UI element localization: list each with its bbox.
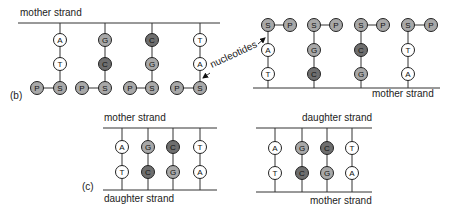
base-A: A — [54, 34, 67, 47]
base-C-letter: C — [299, 169, 305, 178]
base-A-letter: A — [197, 60, 203, 69]
phosphate-node: P — [31, 82, 44, 95]
base-G-letter: G — [299, 144, 305, 153]
base-G-letter: G — [170, 168, 176, 177]
sugar-node-letter: S — [405, 21, 410, 30]
daughter-strand-label: daughter strand — [104, 193, 174, 204]
sugar-node-letter: S — [57, 84, 62, 93]
phosphate-node-letter: P — [287, 21, 292, 30]
base-C-letter: C — [170, 143, 176, 152]
base-T-letter: T — [406, 46, 411, 55]
base-T-letter: T — [58, 60, 63, 69]
nucleotides-label: nucleotides — [208, 38, 259, 69]
base-T-letter: T — [266, 70, 271, 79]
base-T: T — [194, 141, 207, 154]
base-C: C — [142, 166, 155, 179]
dna-replication-diagram: mother strand ATPSGCPSCGPSTAPS (b) nucle… — [0, 0, 449, 217]
base-T: T — [116, 166, 129, 179]
base-G: G — [296, 142, 309, 155]
sugar-node: S — [262, 19, 275, 32]
nucleotides-annotation: nucleotides — [203, 38, 265, 78]
base-C: C — [308, 68, 321, 81]
base-C: C — [167, 141, 180, 154]
base-T-letter: T — [120, 168, 125, 177]
base-A: A — [346, 167, 359, 180]
sugar-node: S — [308, 19, 321, 32]
base-C: C — [296, 167, 309, 180]
phosphate-node: P — [76, 82, 89, 95]
sugar-node: S — [54, 82, 67, 95]
base-C-letter: C — [149, 36, 155, 45]
base-T: T — [194, 34, 207, 47]
base-T-letter: T — [350, 144, 355, 153]
phosphate-node: P — [330, 19, 343, 32]
base-G: G — [355, 68, 368, 81]
phosphate-node-letter: P — [380, 21, 385, 30]
sugar-node: S — [99, 82, 112, 95]
sugar-node: S — [355, 19, 368, 32]
arrow-to-right-nucleotide — [258, 38, 265, 44]
base-C: C — [146, 34, 159, 47]
base-C-letter: C — [102, 60, 108, 69]
base-T: T — [262, 68, 275, 81]
base-G: G — [99, 34, 112, 47]
base-C-letter: C — [324, 144, 330, 153]
phosphate-node-letter: P — [79, 84, 84, 93]
phosphate-node: P — [425, 19, 438, 32]
base-T-letter: T — [198, 143, 203, 152]
base-A-letter: A — [57, 36, 63, 45]
daughter-strand-label: daughter strand — [302, 112, 372, 123]
panel-b-label: (b) — [10, 90, 22, 101]
base-T: T — [269, 167, 282, 180]
mother-strand-label: mother strand — [372, 88, 434, 99]
base-G-letter: G — [311, 46, 317, 55]
panel-c-left: mother strand daughter strand (c) ATGCCG… — [82, 112, 217, 204]
base-T: T — [54, 58, 67, 71]
base-A-letter: A — [265, 46, 271, 55]
base-A-letter: A — [119, 143, 125, 152]
base-T: T — [346, 142, 359, 155]
phosphate-node: P — [284, 19, 297, 32]
phosphate-node: P — [171, 82, 184, 95]
mother-strand-label: mother strand — [310, 195, 372, 206]
base-C: C — [355, 44, 368, 57]
phosphate-node-letter: P — [428, 21, 433, 30]
base-A: A — [262, 44, 275, 57]
sugar-node-letter: S — [197, 84, 202, 93]
sugar-node-letter: S — [311, 21, 316, 30]
base-A: A — [402, 68, 415, 81]
base-A: A — [194, 166, 207, 179]
base-A-letter: A — [349, 169, 355, 178]
base-C-letter: C — [311, 70, 317, 79]
arrow-to-left-nucleotide — [203, 73, 210, 78]
base-G: G — [308, 44, 321, 57]
sugar-node-letter: S — [102, 84, 107, 93]
phosphate-node-letter: P — [34, 84, 39, 93]
phosphate-node: P — [124, 82, 137, 95]
base-A-letter: A — [272, 144, 278, 153]
phosphate-node: P — [377, 19, 390, 32]
base-G-letter: G — [324, 169, 330, 178]
base-G-letter: G — [149, 60, 155, 69]
phosphate-node-letter: P — [333, 21, 338, 30]
base-A: A — [194, 58, 207, 71]
phosphate-node-letter: P — [127, 84, 132, 93]
base-A-letter: A — [405, 70, 411, 79]
base-A: A — [269, 142, 282, 155]
base-G-letter: G — [102, 36, 108, 45]
base-G-letter: G — [358, 70, 364, 79]
mother-strand-label: mother strand — [20, 7, 82, 18]
base-G: G — [167, 166, 180, 179]
mother-strand-label: mother strand — [104, 112, 166, 123]
base-G: G — [142, 141, 155, 154]
base-A: A — [116, 141, 129, 154]
base-T-letter: T — [198, 36, 203, 45]
base-C-letter: C — [145, 168, 151, 177]
base-G: G — [146, 58, 159, 71]
sugar-node-letter: S — [265, 21, 270, 30]
panel-c-right: daughter strand mother strand ATGCCGTA — [256, 112, 372, 206]
base-C: C — [321, 142, 334, 155]
base-T-letter: T — [273, 169, 278, 178]
phosphate-node-letter: P — [174, 84, 179, 93]
panel-b-right: mother strand SPATSPGCSPCGSPTA — [253, 19, 440, 100]
